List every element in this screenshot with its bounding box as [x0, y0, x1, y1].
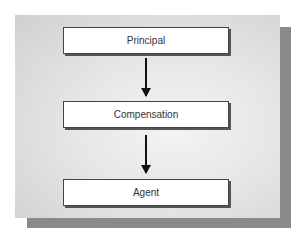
arrow-compensation-to-agent — [145, 135, 147, 173]
node-agent: Agent — [63, 179, 229, 206]
node-label: Agent — [133, 187, 159, 198]
arrow-down-icon — [141, 88, 151, 97]
node-compensation: Compensation — [63, 101, 229, 128]
arrow-principal-to-compensation — [145, 58, 147, 96]
node-label: Principal — [127, 35, 165, 46]
arrow-down-icon — [141, 165, 151, 174]
node-principal: Principal — [63, 27, 229, 54]
node-label: Compensation — [114, 109, 178, 120]
